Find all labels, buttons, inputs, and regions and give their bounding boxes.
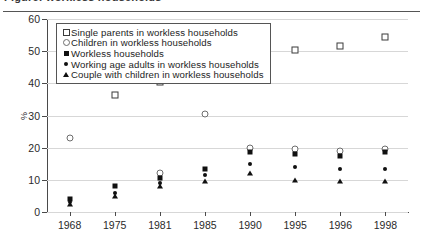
- x-tick-label-1981: 1981: [148, 219, 171, 231]
- title-divider: [3, 11, 420, 12]
- data-point: [201, 110, 208, 117]
- x-tick-label-1985: 1985: [193, 219, 216, 231]
- x-tick-label-1998: 1998: [374, 219, 397, 231]
- legend-marker: [63, 72, 69, 77]
- page-title: Figure: workless households: [4, 0, 162, 3]
- gridline-10: [47, 180, 408, 181]
- data-point: [292, 177, 298, 182]
- legend-item-2: Workless households: [61, 48, 264, 59]
- legend-marker: [63, 39, 70, 46]
- x-tick-label-1995: 1995: [284, 219, 307, 231]
- chart-figure: Figure: workless households % 0102030405…: [0, 0, 423, 246]
- data-point: [337, 43, 344, 50]
- y-tick-20: [42, 148, 47, 149]
- data-point: [203, 173, 207, 177]
- gridline-60: [47, 19, 408, 20]
- data-point: [202, 166, 207, 171]
- y-tick-40: [42, 83, 47, 84]
- legend-item-0: Single parents in workless households: [61, 27, 264, 38]
- legend-marker: [64, 62, 68, 66]
- data-point: [383, 150, 388, 155]
- data-point: [292, 46, 299, 53]
- data-point: [338, 167, 342, 171]
- data-point: [293, 165, 297, 169]
- gridline-0: [47, 212, 408, 213]
- chart-legend: Single parents in workless householdsChi…: [56, 23, 271, 84]
- data-point: [157, 176, 162, 181]
- open-circle-icon: [61, 39, 71, 46]
- x-tick-1981: [160, 212, 161, 216]
- legend-item-1: Children in workless households: [61, 38, 264, 49]
- data-point: [382, 33, 389, 40]
- x-tick-1995: [295, 212, 296, 216]
- legend-label: Children in workless households: [71, 37, 212, 48]
- y-tick-label-60: 60: [28, 13, 40, 25]
- data-point: [66, 135, 73, 142]
- y-tick-label-20: 20: [28, 142, 40, 154]
- x-tick-1968: [70, 212, 71, 216]
- data-point: [247, 171, 253, 176]
- legend-label: Single parents in workless households: [71, 27, 238, 38]
- filled-square-icon: [61, 51, 71, 56]
- filled-diamond-icon: [61, 62, 71, 66]
- data-point: [337, 179, 343, 184]
- data-point: [382, 179, 388, 184]
- data-point: [293, 152, 298, 157]
- x-tick-1985: [205, 212, 206, 216]
- y-tick-label-50: 50: [28, 45, 40, 57]
- y-tick-0: [42, 212, 47, 213]
- data-point: [248, 162, 252, 166]
- data-point: [112, 193, 118, 198]
- gridline-20: [47, 148, 408, 149]
- x-tick-1990: [250, 212, 251, 216]
- x-tick-label-1990: 1990: [238, 219, 261, 231]
- data-point: [157, 184, 163, 189]
- data-point: [111, 91, 118, 98]
- data-point: [248, 150, 253, 155]
- filled-triangle-icon: [61, 72, 71, 77]
- x-tick-1996: [340, 212, 341, 216]
- x-tick-label-1968: 1968: [58, 219, 81, 231]
- legend-item-3: Working age adults in workless household…: [61, 59, 264, 70]
- data-point: [67, 201, 73, 206]
- data-point: [202, 179, 208, 184]
- y-tick-label-0: 0: [34, 206, 40, 218]
- y-tick-label-10: 10: [28, 174, 40, 186]
- x-tick-1998: [385, 212, 386, 216]
- y-tick-label-30: 30: [28, 110, 40, 122]
- data-point: [383, 167, 387, 171]
- x-tick-label-1996: 1996: [329, 219, 352, 231]
- legend-label: Workless households: [71, 48, 164, 59]
- x-tick-label-1975: 1975: [103, 219, 126, 231]
- y-tick-30: [42, 116, 47, 117]
- y-tick-50: [42, 51, 47, 52]
- y-tick-10: [42, 180, 47, 181]
- legend-item-4: Couple with children in workless househo…: [61, 69, 264, 80]
- open-square-icon: [61, 29, 71, 36]
- legend-label: Working age adults in workless household…: [71, 59, 259, 70]
- data-point: [112, 184, 117, 189]
- y-tick-label-40: 40: [28, 77, 40, 89]
- legend-marker: [63, 29, 70, 36]
- gridline-30: [47, 116, 408, 117]
- legend-label: Couple with children in workless househo…: [71, 69, 264, 80]
- y-tick-60: [42, 19, 47, 20]
- x-tick-1975: [115, 212, 116, 216]
- legend-marker: [64, 51, 69, 56]
- data-point: [338, 153, 343, 158]
